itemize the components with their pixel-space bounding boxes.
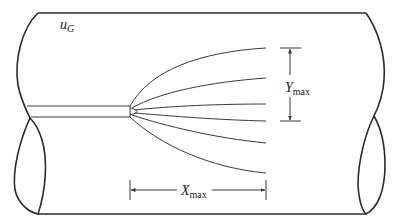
pipe-right-end-loop — [358, 116, 385, 214]
spray-line-4 — [135, 113, 266, 121]
spray-line-5 — [132, 115, 266, 143]
x-max-label: Xmax — [177, 182, 211, 198]
pipe-right-end-upper — [366, 13, 384, 116]
crossflow-velocity-label: uG — [60, 16, 74, 32]
spray-line-3 — [135, 104, 266, 110]
x-max-subscript: max — [190, 189, 207, 200]
pipe-left-end-loop — [14, 118, 45, 214]
x-max-symbol: X — [181, 183, 190, 198]
crossflow-velocity-subscript: G — [67, 23, 74, 34]
spray-fan — [130, 48, 266, 173]
y-max-subscript: max — [293, 86, 310, 97]
pipe-left-end-upper — [17, 13, 38, 118]
crossflow-velocity-symbol: u — [60, 17, 67, 32]
spray-line-6 — [130, 117, 266, 173]
spray-line-1 — [130, 48, 266, 106]
y-max-label: Ymax — [285, 77, 310, 97]
nozzle-tube — [27, 106, 137, 117]
spray-line-2 — [132, 78, 266, 108]
y-max-symbol: Y — [285, 80, 293, 95]
